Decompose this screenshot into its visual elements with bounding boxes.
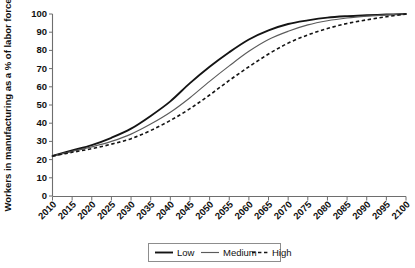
y-tick-label: 60 bbox=[36, 81, 47, 92]
y-tick-label: 70 bbox=[36, 63, 47, 74]
y-tick-label: 90 bbox=[36, 26, 47, 37]
x-tick-label: 2025 bbox=[95, 198, 118, 221]
legend: Low Medium High bbox=[149, 244, 292, 262]
y-tick-label: 50 bbox=[36, 99, 47, 110]
x-tick-label: 2070 bbox=[271, 199, 294, 222]
legend-label-high: High bbox=[272, 247, 292, 258]
y-tick-label: 80 bbox=[36, 44, 47, 55]
series-line-high bbox=[53, 14, 407, 156]
series-line-medium bbox=[53, 14, 407, 156]
y-tick-label: 100 bbox=[31, 8, 47, 19]
legend-label-medium: Medium bbox=[223, 247, 257, 258]
x-tick-label: 2035 bbox=[134, 198, 157, 221]
line-chart: Workers in manufacturing as a % of labor… bbox=[0, 0, 415, 268]
y-axis-tick-labels: 0102030405060708090100 bbox=[31, 8, 47, 201]
x-axis-tick-labels: 2010201520202025203020352040204520502055… bbox=[36, 198, 412, 221]
x-tick-label: 2040 bbox=[154, 199, 177, 222]
x-tick-label: 2050 bbox=[193, 199, 216, 222]
x-tick-label: 2095 bbox=[370, 198, 393, 221]
x-tick-label: 2075 bbox=[291, 198, 314, 221]
y-axis-title-group: Workers in manufacturing as a % of labor… bbox=[2, 0, 13, 212]
x-tick-label: 2100 bbox=[389, 199, 412, 222]
y-tick-label: 30 bbox=[36, 135, 47, 146]
x-tick-label: 2065 bbox=[252, 198, 275, 221]
x-tick-label: 2085 bbox=[330, 198, 353, 221]
chart-figure: Workers in manufacturing as a % of labor… bbox=[0, 0, 415, 268]
y-tick-label: 10 bbox=[36, 172, 47, 183]
y-tick-label: 20 bbox=[36, 154, 47, 165]
x-tick-label: 2060 bbox=[232, 199, 255, 222]
x-tick-label: 2080 bbox=[311, 199, 334, 222]
x-tick-label: 2010 bbox=[36, 199, 59, 222]
x-axis-tick-marks bbox=[53, 197, 407, 201]
x-tick-label: 2030 bbox=[114, 199, 137, 222]
y-axis-title: Workers in manufacturing as a % of labor… bbox=[2, 0, 13, 212]
x-tick-label: 2055 bbox=[212, 198, 235, 221]
y-tick-label: 40 bbox=[36, 117, 47, 128]
x-tick-label: 2015 bbox=[55, 198, 78, 221]
x-tick-label: 2020 bbox=[75, 199, 98, 222]
legend-label-low: Low bbox=[177, 247, 195, 258]
x-tick-label: 2045 bbox=[173, 198, 196, 221]
x-tick-label: 2090 bbox=[350, 199, 373, 222]
series-line-low bbox=[53, 14, 407, 156]
y-tick-label: 0 bbox=[42, 190, 47, 201]
